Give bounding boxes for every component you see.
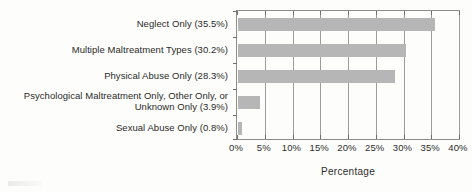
plot-area (236, 10, 460, 140)
y-axis-tick (233, 37, 237, 38)
scan-artifact (8, 181, 42, 186)
x-axis-tick (293, 135, 294, 139)
x-axis-tick (459, 11, 460, 15)
y-axis-tick (233, 11, 237, 12)
x-axis-tick-label: 15% (310, 142, 329, 153)
x-axis-tick (320, 11, 321, 15)
category-label: Sexual Abuse Only (0.8%) (0, 122, 228, 133)
x-axis-tick (320, 135, 321, 139)
x-axis-tick (265, 135, 266, 139)
x-axis-tick-label: 25% (365, 142, 384, 153)
bar (238, 122, 242, 135)
bar (238, 44, 406, 57)
gridline (459, 11, 460, 139)
x-axis-tick (376, 11, 377, 15)
x-axis-tick (237, 11, 238, 15)
category-label: Multiple Maltreatment Types (30.2%) (0, 44, 228, 55)
bar (238, 18, 435, 31)
x-axis-tick-label: 10% (282, 142, 301, 153)
x-axis-tick (459, 135, 460, 139)
x-axis-title: Percentage (236, 166, 460, 177)
x-axis-tick (431, 11, 432, 15)
x-axis-tick (237, 135, 238, 139)
x-axis-tick (376, 135, 377, 139)
x-axis-tick-label: 0% (229, 142, 243, 153)
x-axis-tick (404, 11, 405, 15)
category-label-list: Neglect Only (35.5%)Multiple Maltreatmen… (0, 10, 232, 140)
bar (238, 70, 395, 83)
y-axis-tick (233, 63, 237, 64)
x-axis-tick (348, 11, 349, 15)
x-axis-tick-label: 35% (421, 142, 440, 153)
x-axis-tick-label: 40% (448, 142, 467, 153)
chart-figure: Neglect Only (35.5%)Multiple Maltreatmen… (0, 0, 472, 192)
y-axis-tick (233, 139, 237, 140)
x-axis-tick (265, 11, 266, 15)
x-axis-tick (293, 11, 294, 15)
x-axis-tick (348, 135, 349, 139)
category-label: Neglect Only (35.5%) (0, 18, 228, 29)
category-label: Physical Abuse Only (28.3%) (0, 70, 228, 81)
x-axis-tick-label: 20% (337, 142, 356, 153)
x-axis-tick (404, 135, 405, 139)
x-axis-tick-labels: 0%5%10%15%20%25%30%35%40% (236, 142, 472, 156)
y-axis-tick (233, 115, 237, 116)
x-axis-tick-label: 30% (393, 142, 412, 153)
x-axis-tick-label: 5% (257, 142, 271, 153)
category-label: Psychological Maltreatment Only, Other O… (0, 90, 228, 112)
y-axis-tick (233, 89, 237, 90)
bar (238, 96, 260, 109)
x-axis-tick (431, 135, 432, 139)
